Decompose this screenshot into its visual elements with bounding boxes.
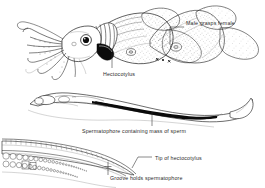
label-male-grasps-female: Male grasps female bbox=[186, 20, 235, 26]
male-eye bbox=[81, 35, 92, 46]
label-tip-of-hectocotylus: Tip of hectocotylus bbox=[155, 155, 202, 161]
squid-anatomy-figure: Male grasps female Hectocotylus bbox=[0, 0, 265, 188]
label-spermatophore: Spermatophore containing mass of sperm bbox=[82, 128, 186, 134]
label-hectocotylus: Hectocotylus bbox=[103, 71, 135, 77]
figure-canvas: Male grasps female Hectocotylus bbox=[0, 0, 265, 188]
label-groove-holds-spermatophore: Groove holds spermatophore bbox=[110, 175, 183, 181]
